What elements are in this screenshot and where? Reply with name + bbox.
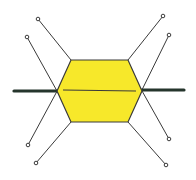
end-circle-icon <box>161 14 165 18</box>
thin-line-bottom-left-outer <box>36 122 71 163</box>
end-circle-icon <box>36 17 40 21</box>
end-circle-icon <box>164 163 168 167</box>
end-circle-icon <box>167 33 171 37</box>
thin-line-top-left-outer <box>38 19 71 60</box>
hexagon-diagram <box>0 0 196 180</box>
thin-line-bottom-right-outer <box>128 122 166 165</box>
end-circle-icon <box>26 143 30 147</box>
end-circle-icon <box>34 161 38 165</box>
end-circle-icon <box>167 137 171 141</box>
end-circle-icon <box>25 35 29 39</box>
thin-line-top-right-outer <box>128 16 163 60</box>
